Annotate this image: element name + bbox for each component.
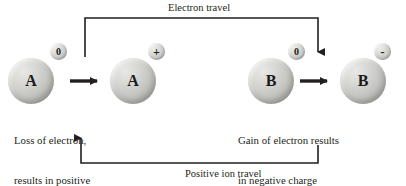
atom-label-a-neutral: A: [8, 72, 54, 90]
atom-label-b-neutral: B: [248, 72, 294, 90]
charge-badge-a-positive: +: [148, 43, 165, 60]
charge-value-b-negative: -: [374, 46, 391, 58]
atom-sphere-b-negative: B: [340, 58, 386, 104]
atom-sphere-a-positive: A: [110, 58, 156, 104]
charge-value-a-positive: +: [148, 46, 165, 58]
atom-label-a-positive: A: [110, 72, 156, 90]
caption-right-line-1: Gain of electron results: [238, 134, 339, 147]
charge-value-b-neutral: 0: [288, 47, 305, 57]
atom-sphere-a-neutral: A: [8, 58, 54, 104]
electron-transfer-diagram: A A B B 0 + 0 - Electron travel Positive…: [0, 0, 406, 186]
charge-value-a-neutral: 0: [50, 47, 67, 57]
caption-right: Gain of electron results in negative cha…: [238, 108, 339, 186]
caption-left: Loss of electron, results in positive ch…: [14, 108, 90, 186]
caption-right-line-2: in negative charge: [238, 174, 339, 186]
charge-badge-b-neutral: 0: [288, 43, 305, 60]
charge-badge-a-neutral: 0: [50, 43, 67, 60]
electron-travel-label: Electron travel: [168, 2, 230, 15]
atom-label-b-negative: B: [340, 72, 386, 90]
charge-badge-b-negative: -: [374, 43, 391, 60]
caption-left-line-1: Loss of electron,: [14, 134, 90, 147]
atom-sphere-b-neutral: B: [248, 58, 294, 104]
electron-travel-path: [85, 18, 318, 57]
caption-left-line-2: results in positive: [14, 174, 90, 186]
